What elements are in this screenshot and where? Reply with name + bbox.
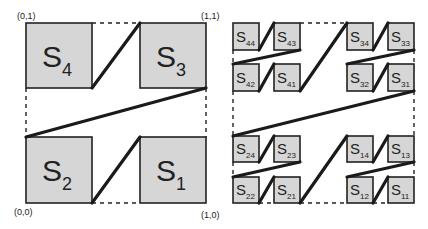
corner-label-top-right: (1,1) bbox=[201, 11, 220, 21]
corner-label-bottom-left: (0,0) bbox=[14, 207, 33, 217]
curve-segment bbox=[92, 23, 140, 88]
corner-label-top-left: (0,1) bbox=[17, 11, 36, 21]
curve-path bbox=[233, 23, 414, 203]
curve-segment bbox=[26, 88, 206, 137]
curve-segment bbox=[92, 137, 140, 203]
diagram-canvas: S4 S3 S2 S1 (0,1) (1,1) (0,0) (1,0) bbox=[0, 0, 428, 229]
right-unit-square: S44 S43 S34 S33 S42 S41 S32 S31 S24 S23 … bbox=[233, 23, 414, 203]
corner-label-bottom-right: (1,0) bbox=[201, 210, 220, 220]
left-unit-square: S4 S3 S2 S1 (0,1) (1,1) (0,0) (1,0) bbox=[14, 11, 220, 220]
